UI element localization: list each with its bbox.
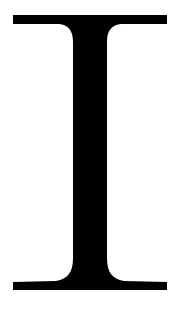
letter-i-glyph: I bbox=[0, 0, 184, 314]
i-beam-icon bbox=[0, 0, 184, 314]
